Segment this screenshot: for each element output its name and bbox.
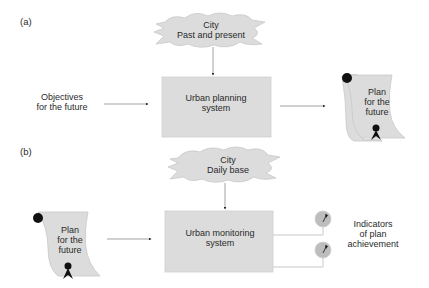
cloud-a-line2: Past and present (177, 30, 246, 40)
connector-indicator-1 (273, 222, 323, 235)
connector-indicator-2 (273, 254, 323, 267)
monitoring-box-line1: Urban monitoring (185, 228, 254, 238)
indicators-line2: of plan (359, 229, 386, 239)
objectives-line2: for the future (36, 102, 87, 112)
plan-b-line1: Plan (61, 225, 79, 235)
objectives-line1: Objectives (41, 92, 84, 102)
cloud-b-line2: Daily base (207, 165, 249, 175)
planning-box-line2: system (202, 103, 231, 113)
gauge-icon-2 (315, 242, 331, 258)
plan-a-line2: for the (364, 97, 390, 107)
monitoring-box-line2: system (206, 238, 235, 248)
indicators-line3: achievement (347, 239, 399, 249)
plan-b-line2: for the (57, 235, 83, 245)
planning-box-line1: Urban planning (185, 93, 246, 103)
gauge-icon-1 (315, 211, 331, 227)
panel-b-label: (b) (20, 146, 32, 157)
panel-a-label: (a) (20, 16, 32, 27)
cloud-b-line1: City (220, 155, 236, 165)
diagram-canvas: (a) City Past and present Urban planning… (0, 0, 429, 288)
indicators-line1: Indicators (353, 219, 393, 229)
plan-a-line1: Plan (368, 87, 386, 97)
cloud-a-line1: City (203, 20, 219, 30)
plan-a-line3: future (365, 107, 388, 117)
plan-b-line3: future (58, 245, 81, 255)
